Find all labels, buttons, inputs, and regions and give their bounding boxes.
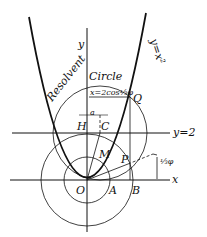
angle-label: ⅓φ — [160, 157, 174, 166]
point-b: B — [131, 184, 140, 197]
resolvent-circle-diagram: y x y=2 Resolvent Circle x=2cos⅓φ y=x² a… — [0, 0, 207, 237]
point-p: P — [120, 153, 129, 166]
point-h: H — [76, 120, 87, 133]
y-axis-label: y — [77, 38, 85, 51]
line-p-dashed — [128, 154, 153, 164]
x-axis-label: x — [172, 173, 179, 186]
curve-label: y=x² — [147, 36, 168, 66]
point-c: C — [101, 120, 110, 133]
chord-label: x=2cos⅓φ — [90, 88, 133, 97]
point-o: O — [76, 184, 85, 197]
line-op — [87, 164, 128, 180]
point-m: M — [98, 148, 111, 161]
a-label: a — [90, 108, 95, 117]
point-q: Q — [133, 92, 142, 105]
resolvent-label: Resolvent — [44, 52, 89, 104]
circle-label: Circle — [89, 70, 123, 83]
line-y2-label: y=2 — [172, 126, 195, 139]
point-a: A — [108, 184, 117, 197]
